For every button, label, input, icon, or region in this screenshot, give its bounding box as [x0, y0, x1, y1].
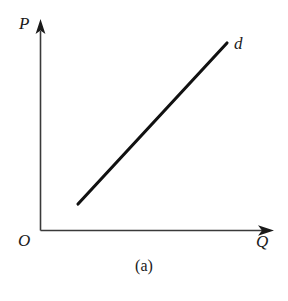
figure-container: P O Q d (a): [0, 0, 288, 301]
demand-curve-d: [78, 43, 227, 204]
chart-plot-area: [0, 0, 288, 301]
origin-label: O: [18, 232, 30, 249]
curve-label-d: d: [234, 35, 243, 52]
x-axis-label: Q: [256, 233, 268, 250]
figure-caption: (a): [0, 258, 288, 274]
y-axis-label: P: [19, 15, 29, 32]
